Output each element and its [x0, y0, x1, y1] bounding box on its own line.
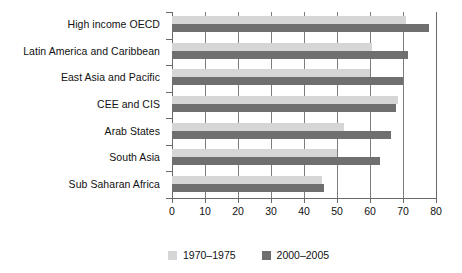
bar [172, 24, 429, 32]
legend-swatch-icon [168, 251, 177, 260]
chart-legend: 1970–19752000–2005 [168, 248, 329, 262]
y-axis-tick [166, 65, 172, 66]
x-axis-tick-label: 0 [159, 205, 185, 217]
x-axis-tick [238, 198, 239, 203]
bar [172, 104, 396, 112]
bar [172, 149, 337, 157]
x-axis-tick-label: 80 [423, 205, 449, 217]
category-label: CEE and CIS [0, 99, 160, 110]
y-axis-tick [166, 118, 172, 119]
bar [172, 131, 391, 139]
bar [172, 123, 344, 131]
x-axis-tick [172, 198, 173, 203]
category-label: Latin America and Caribbean [0, 46, 160, 57]
y-axis-tick [166, 12, 172, 13]
category-label: Arab States [0, 126, 160, 137]
legend-label: 1970–1975 [183, 250, 236, 261]
x-axis-tick [304, 198, 305, 203]
x-axis-tick [403, 198, 404, 203]
x-axis-tick [271, 198, 272, 203]
y-axis-tick [166, 145, 172, 146]
x-axis-tick-label: 60 [357, 205, 383, 217]
legend-item[interactable]: 2000–2005 [262, 250, 330, 261]
bar [172, 69, 370, 77]
bar [172, 77, 403, 85]
category-label: Sub Saharan Africa [0, 179, 160, 190]
bar [172, 16, 406, 24]
gridline-80 [436, 12, 437, 198]
legend-swatch-icon [262, 251, 271, 260]
bar [172, 176, 322, 184]
x-axis-tick-label: 40 [291, 205, 317, 217]
x-axis-tick-label: 30 [258, 205, 284, 217]
x-axis-tick [205, 198, 206, 203]
x-axis-tick [337, 198, 338, 203]
x-axis-tick-label: 70 [390, 205, 416, 217]
x-axis-tick-label: 20 [225, 205, 251, 217]
legend-item[interactable]: 1970–1975 [168, 250, 236, 261]
x-axis-tick-label: 50 [324, 205, 350, 217]
category-axis-labels: High income OECDLatin America and Caribb… [0, 12, 166, 198]
category-label: High income OECD [0, 19, 160, 30]
bar [172, 51, 408, 59]
bar [172, 157, 380, 165]
y-axis-tick [166, 171, 172, 172]
x-axis-tick [436, 198, 437, 203]
y-axis-tick [166, 39, 172, 40]
legend-label: 2000–2005 [277, 250, 330, 261]
x-axis-tick [370, 198, 371, 203]
x-axis-tick-label: 10 [192, 205, 218, 217]
bar [172, 96, 398, 104]
bar [172, 184, 324, 192]
category-label: South Asia [0, 152, 160, 163]
bar-chart: High income OECDLatin America and Caribb… [0, 0, 462, 273]
gridline-70 [403, 12, 404, 198]
y-axis-tick [166, 92, 172, 93]
bar [172, 43, 372, 51]
category-label: East Asia and Pacific [0, 72, 160, 83]
plot-area [172, 12, 436, 198]
